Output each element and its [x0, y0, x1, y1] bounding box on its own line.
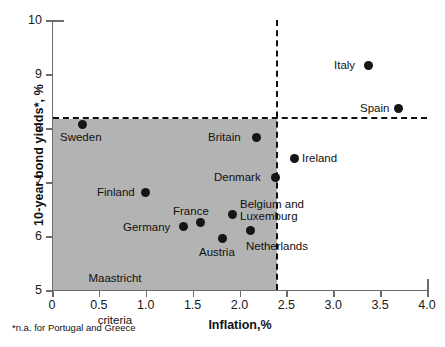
- y-tick-7: [46, 182, 52, 184]
- x-ticklabel-4.0: 4.0: [407, 299, 445, 312]
- data-label-austria: Austria: [199, 246, 235, 258]
- x-ticklabel-1.5: 1.5: [173, 299, 213, 312]
- x-tick-2.0: [240, 291, 242, 297]
- data-label-britain: Britain: [208, 131, 241, 143]
- x-ticklabel-3.5: 3.5: [360, 299, 400, 312]
- data-label-netherlands: Netherlands: [246, 240, 308, 252]
- axis-corner-stub-bottom-right: [427, 279, 429, 291]
- data-point-belgium-luxemburg[interactable]: [228, 210, 237, 219]
- data-point-france[interactable]: [196, 218, 205, 227]
- x-tick-4.0: [427, 291, 429, 297]
- x-ticklabel-2.0: 2.0: [220, 299, 260, 312]
- y-axis-title: 10-year bond yields*, %: [32, 55, 46, 255]
- data-point-britain[interactable]: [252, 133, 261, 142]
- x-ticklabel-3.0: 3.0: [313, 299, 353, 312]
- x-axis-title: Inflation,%: [150, 318, 330, 332]
- x-tick-3.5: [380, 291, 382, 297]
- data-point-spain[interactable]: [394, 104, 403, 113]
- data-label-italy: Italy: [334, 59, 355, 71]
- data-label-denmark: Denmark: [214, 171, 261, 183]
- data-label-germany: Germany: [123, 221, 170, 233]
- y-tick-9: [46, 74, 52, 76]
- data-label-france: France: [173, 205, 209, 217]
- chart-footnote: *n.a. for Portugal and Greece: [12, 322, 136, 333]
- y-tick-8: [46, 128, 52, 130]
- data-label-sweden: Sweden: [60, 131, 102, 143]
- y-tick-6: [46, 236, 52, 238]
- y-ticklabel-10: 10: [12, 14, 42, 27]
- scatter-chart: 10 9 8 7 6 5 0 0.5 1.0 1.5 2.0 2.5 3.0 3…: [0, 0, 445, 347]
- data-point-ireland[interactable]: [290, 154, 299, 163]
- x-tick-1.5: [193, 291, 195, 297]
- y-tick-10: [46, 20, 52, 22]
- maastricht-criteria-line1: Maastricht: [60, 271, 170, 285]
- axis-corner-stub-top-left: [52, 20, 64, 22]
- y-ticklabel-5: 5: [12, 284, 42, 297]
- data-label-ireland: Ireland: [302, 152, 337, 164]
- data-label-belgium-luxemburg: Belgium and Luxemburg: [240, 198, 304, 223]
- x-tick-3.0: [333, 291, 335, 297]
- data-label-finland: Finland: [97, 186, 135, 198]
- x-tick-0: [52, 291, 54, 297]
- x-tick-2.5: [286, 291, 288, 297]
- data-point-denmark[interactable]: [271, 173, 280, 182]
- data-label-spain: Spain: [360, 102, 389, 114]
- reference-line-yield-threshold: [53, 117, 427, 119]
- x-ticklabel-2.5: 2.5: [266, 299, 306, 312]
